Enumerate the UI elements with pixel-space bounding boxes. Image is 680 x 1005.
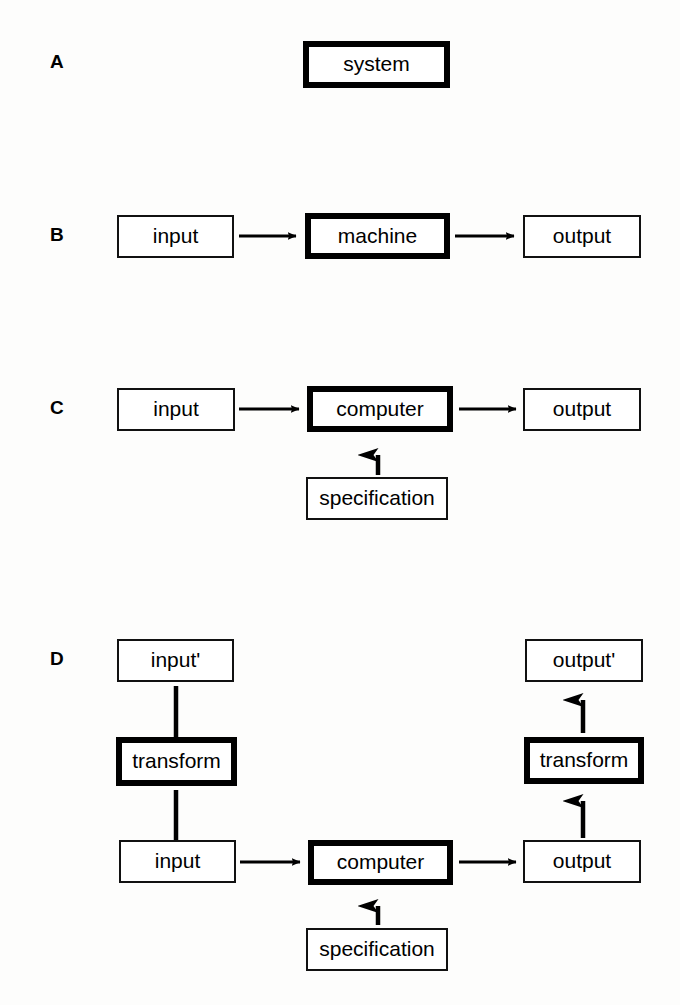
node-d-output-prime: output' — [525, 639, 643, 682]
node-b-machine-label: machine — [338, 225, 417, 248]
node-d-computer: computer — [308, 840, 453, 885]
node-d-input-label: input — [155, 850, 201, 873]
node-d-input-prime: input' — [117, 639, 234, 682]
panel-letter-b: B — [50, 225, 64, 244]
node-system-label: system — [343, 53, 410, 76]
node-d-output-prime-label: output' — [553, 649, 615, 672]
node-c-computer-label: computer — [336, 398, 424, 421]
node-d-input: input — [119, 840, 236, 883]
node-d-computer-label: computer — [337, 851, 425, 874]
node-system: system — [303, 41, 450, 88]
node-c-computer: computer — [307, 386, 453, 432]
node-c-input: input — [117, 388, 235, 431]
panel-letter-d: D — [50, 649, 64, 668]
node-b-output-label: output — [553, 225, 611, 248]
node-c-output-label: output — [553, 398, 611, 421]
node-b-machine: machine — [305, 213, 450, 259]
node-c-input-label: input — [153, 398, 199, 421]
node-d-transform-right-label: transform — [540, 749, 629, 772]
node-b-output: output — [523, 215, 641, 258]
figure-canvas: A system B input machine output C input … — [0, 0, 680, 1005]
node-d-transform-left: transform — [116, 737, 237, 786]
node-b-input: input — [117, 215, 234, 258]
panel-letter-c: C — [50, 398, 64, 417]
node-b-input-label: input — [153, 225, 199, 248]
node-d-transform-right: transform — [524, 737, 644, 784]
node-d-transform-left-label: transform — [132, 750, 221, 773]
node-c-specification-label: specification — [319, 487, 435, 510]
node-c-specification: specification — [306, 477, 448, 520]
node-d-output-label: output — [553, 850, 611, 873]
node-d-input-prime-label: input' — [151, 649, 201, 672]
node-d-output: output — [523, 840, 641, 883]
panel-letter-a: A — [50, 52, 64, 71]
node-c-output: output — [523, 388, 641, 431]
node-d-specification: specification — [306, 928, 448, 971]
node-d-specification-label: specification — [319, 938, 435, 961]
